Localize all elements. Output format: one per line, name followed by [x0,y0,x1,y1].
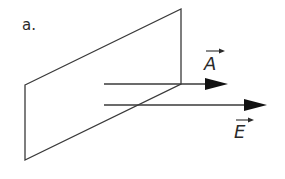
vector-arrow-icon [248,118,254,123]
svg-text:E: E [234,121,246,142]
vector-e-label: E [234,118,254,143]
vector-arrow-icon [219,49,225,54]
vector-a-arrow [104,78,228,90]
part-label: a. [22,16,36,34]
flux-diagram: a. A E [0,0,285,179]
arrowhead-icon [244,99,267,111]
vector-a-label: A [203,49,225,75]
arrowhead-icon [205,78,228,90]
svg-text:A: A [203,53,216,74]
